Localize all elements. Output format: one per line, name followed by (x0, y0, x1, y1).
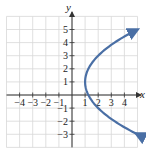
x-tick-label: −2 (40, 97, 51, 108)
axes (7, 12, 142, 147)
y-tick-label: 2 (63, 63, 68, 74)
x-tick-label: −3 (27, 97, 38, 108)
y-tick-label: 5 (63, 24, 68, 35)
y-axis-label: y (65, 1, 71, 13)
x-tick-label: 3 (109, 97, 114, 108)
y-tick-label: −2 (57, 116, 68, 127)
y-tick-label: 1 (63, 76, 68, 87)
x-axis-label: x (139, 88, 145, 100)
y-tick-label: 3 (63, 50, 68, 61)
y-tick-label: −1 (57, 103, 68, 114)
x-tick-label: 1 (83, 97, 88, 108)
graph: −4−3−2−1123454321−1−2−3 x y (0, 0, 146, 152)
y-tick-label: 4 (63, 37, 68, 48)
x-tick-label: −4 (14, 97, 25, 108)
x-tick-label: 4 (122, 97, 127, 108)
y-tick-label: −3 (57, 129, 68, 140)
